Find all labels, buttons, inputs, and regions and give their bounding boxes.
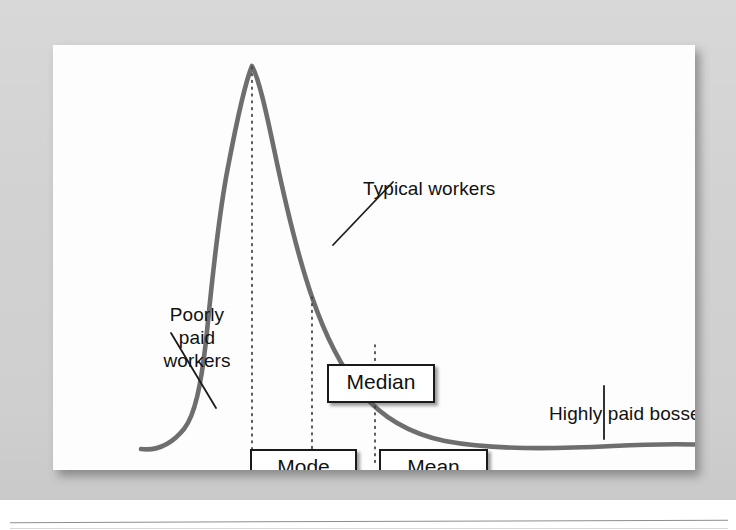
page-canvas: Poorly paid workers Typical workers High… xyxy=(0,0,736,530)
callout-highly-paid-bosses: Highly paid bosses xyxy=(549,402,695,425)
figure-panel-inner: Poorly paid workers Typical workers High… xyxy=(53,45,695,470)
page-bottom-rule-secondary xyxy=(10,528,728,529)
callout-typical-workers: Typical workers xyxy=(363,177,583,200)
stat-box-mode: Mode xyxy=(250,449,357,470)
stat-box-mean: Mean xyxy=(379,449,488,470)
page-bottom-rule xyxy=(10,520,728,523)
stat-box-median: Median xyxy=(327,364,435,403)
callout-poorly-paid-workers: Poorly paid workers xyxy=(137,303,257,372)
figure-panel: Poorly paid workers Typical workers High… xyxy=(53,45,695,470)
